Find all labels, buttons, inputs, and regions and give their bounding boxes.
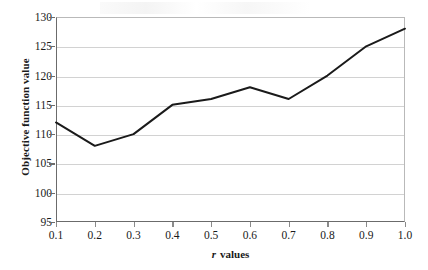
y-tick-mark-100 — [49, 193, 55, 194]
x-tick-label-0.7: 0.7 — [269, 229, 309, 241]
y-tick-mark-115 — [49, 105, 55, 106]
x-tick-mark-0.8 — [327, 222, 328, 227]
y-axis-tick-marks — [0, 17, 56, 222]
x-tick-mark-1.0 — [405, 222, 406, 227]
x-tick-mark-0.3 — [134, 222, 135, 227]
x-tick-mark-0.6 — [250, 222, 251, 227]
scan-noise-artifact — [100, 2, 310, 14]
x-tick-label-0.5: 0.5 — [191, 229, 231, 241]
chart-figure: Objective function value 951001051101151… — [0, 0, 428, 270]
data-series-line — [56, 17, 405, 222]
x-axis-title: rvalues — [56, 248, 405, 260]
x-tick-label-0.2: 0.2 — [75, 229, 115, 241]
x-tick-mark-0.5 — [211, 222, 212, 227]
x-tick-label-0.4: 0.4 — [152, 229, 192, 241]
x-tick-mark-0.1 — [56, 222, 57, 227]
x-tick-label-0.1: 0.1 — [36, 229, 76, 241]
x-tick-label-0.9: 0.9 — [346, 229, 386, 241]
y-tick-mark-95 — [49, 222, 55, 223]
x-tick-mark-0.7 — [289, 222, 290, 227]
y-tick-mark-120 — [49, 76, 55, 77]
y-tick-mark-110 — [49, 134, 55, 135]
x-tick-mark-0.2 — [95, 222, 96, 227]
y-tick-mark-125 — [49, 46, 55, 47]
x-axis-title-text: values — [220, 248, 249, 260]
x-tick-label-1.0: 1.0 — [385, 229, 425, 241]
x-tick-label-0.3: 0.3 — [114, 229, 154, 241]
y-tick-mark-130 — [49, 17, 55, 18]
x-axis-tick-labels: 0.10.20.30.40.50.60.70.80.91.0 — [56, 229, 405, 247]
x-tick-label-0.6: 0.6 — [230, 229, 270, 241]
x-tick-mark-0.4 — [172, 222, 173, 227]
y-tick-mark-105 — [49, 163, 55, 164]
x-tick-mark-0.9 — [366, 222, 367, 227]
x-axis-title-variable: r — [212, 248, 216, 260]
x-axis-tick-marks — [56, 222, 405, 228]
x-tick-label-0.8: 0.8 — [307, 229, 347, 241]
